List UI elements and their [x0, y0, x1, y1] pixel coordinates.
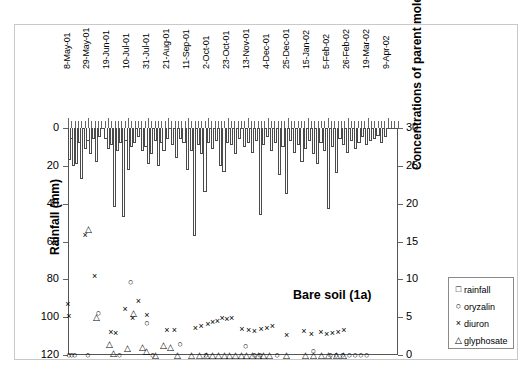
y-axis-right-tick — [398, 242, 403, 243]
data-point-diuron: × — [246, 326, 251, 334]
x-axis-tick — [354, 121, 355, 128]
x-axis-tick — [95, 121, 96, 128]
x-axis-tick — [91, 121, 92, 128]
x-axis-tick-major — [68, 118, 69, 128]
rainfall-bar — [207, 128, 210, 143]
x-axis-tick — [231, 121, 232, 128]
x-axis-tick-major — [188, 118, 189, 128]
rainfall-bar — [357, 128, 360, 143]
data-point-diuron: × — [65, 300, 70, 308]
x-axis-tick — [391, 121, 392, 128]
y-axis-left-tick-label: 0 — [33, 121, 59, 133]
data-point-glyphosate: △ — [266, 351, 273, 359]
x-axis-tick-major — [328, 118, 329, 128]
y-axis-right-tick-label: 0 — [406, 348, 432, 360]
rainfall-bar — [338, 128, 341, 139]
x-axis-tick — [281, 121, 282, 128]
x-axis-tick — [294, 121, 295, 128]
y-axis-right-tick — [398, 317, 403, 318]
x-axis-tick — [271, 121, 272, 128]
x-axis-tick — [111, 121, 112, 128]
rainfall-bar — [243, 128, 246, 147]
rainfall-bar — [193, 128, 196, 236]
x-axis-tick — [344, 121, 345, 128]
data-point-diuron: × — [309, 330, 314, 338]
y-axis-right-tick-label: 15 — [406, 235, 432, 247]
x-axis-tick — [105, 121, 106, 128]
y-axis-left-tick — [63, 204, 68, 205]
rainfall-bar — [179, 128, 182, 139]
x-axis-tick — [274, 121, 275, 128]
x-axis-tick — [158, 121, 159, 128]
x-axis-tick — [155, 121, 156, 128]
x-axis-tick-major — [388, 118, 389, 128]
legend-label: oryzalin — [464, 302, 495, 312]
rainfall-bar — [98, 128, 101, 137]
data-point-diuron: × — [324, 330, 329, 338]
x-axis-tick — [205, 121, 206, 128]
data-point-oryzalin: ○ — [364, 351, 369, 359]
rainfall-bar — [230, 128, 233, 145]
rainfall-bar — [369, 128, 372, 141]
x-axis-tick-major — [128, 118, 129, 128]
data-point-glyphosate: △ — [318, 351, 325, 359]
rainfall-bar — [335, 128, 338, 173]
y-axis-left-tick — [63, 166, 68, 167]
rainfall-bar — [234, 128, 237, 154]
data-point-diuron: × — [172, 326, 177, 334]
data-point-glyphosate: △ — [283, 351, 290, 359]
x-axis-tick — [244, 121, 245, 128]
x-axis-tick — [198, 121, 199, 128]
x-axis-label: 5-Feb-02 — [321, 34, 331, 69]
x-axis-tick — [218, 121, 219, 128]
x-axis-label: 9-Apr-02 — [381, 36, 391, 69]
data-point-glyphosate: △ — [325, 351, 332, 359]
rainfall-bar — [316, 128, 319, 164]
x-axis-tick — [264, 121, 265, 128]
data-point-diuron: × — [335, 328, 340, 336]
data-point-diuron: × — [341, 326, 346, 334]
rainfall-bar — [162, 128, 165, 151]
x-axis-tick — [381, 121, 382, 128]
x-axis-tick — [78, 121, 79, 128]
rainfall-bar — [312, 128, 315, 154]
data-point-diuron: × — [270, 322, 275, 330]
x-axis-label: 4-Dec-01 — [261, 34, 271, 69]
rainfall-bar — [266, 128, 269, 137]
rainfall-bar — [365, 128, 368, 145]
rainfall-bar — [133, 128, 136, 143]
x-axis-tick — [185, 121, 186, 128]
data-point-diuron: × — [301, 327, 306, 335]
x-axis-tick — [254, 121, 255, 128]
rainfall-bar — [319, 128, 322, 143]
y-axis-right-tick-label: 5 — [406, 310, 432, 322]
circle-icon: ○ — [453, 302, 464, 311]
y-axis-left-tick-label: 40 — [33, 197, 59, 209]
rainfall-bar — [259, 128, 262, 215]
x-axis-tick — [161, 121, 162, 128]
x-axis-label: 13-Nov-01 — [241, 29, 251, 69]
cross-icon: × — [453, 319, 464, 328]
legend-item-glyphosate: △ glyphosate — [453, 332, 510, 349]
x-axis-label: 11-Sep-01 — [181, 29, 191, 69]
data-point-diuron: × — [136, 297, 141, 305]
data-point-oryzalin: ○ — [85, 351, 90, 359]
x-axis-tick — [278, 121, 279, 128]
legend-label: glyphosate — [464, 336, 508, 346]
rainfall-bar — [346, 128, 349, 153]
chart-legend: □ rainfall ○ oryzalin × diuron △ glyphos… — [448, 277, 514, 349]
x-axis-label: 19-Mar-02 — [361, 29, 371, 69]
data-point-diuron: × — [92, 272, 97, 280]
rainfall-bar — [255, 128, 258, 141]
data-point-glyphosate: △ — [152, 351, 159, 359]
y-axis-left-tick-label: 60 — [33, 235, 59, 247]
x-axis-tick — [338, 121, 339, 128]
data-point-diuron: × — [330, 329, 335, 337]
x-axis-tick — [298, 121, 299, 128]
y-axis-left-tick-label: 120 — [33, 348, 59, 360]
x-axis-tick — [241, 121, 242, 128]
data-point-glyphosate: △ — [310, 351, 317, 359]
rainfall-bar — [361, 128, 364, 137]
x-axis-tick — [358, 121, 359, 128]
rainfall-bar — [285, 128, 288, 194]
